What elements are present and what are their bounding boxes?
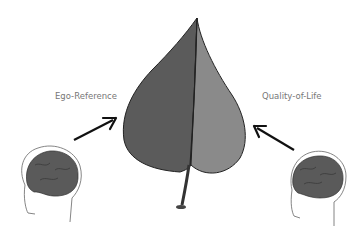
quality-of-life-label: Quality-of-Life xyxy=(262,91,322,101)
brain-head-icon xyxy=(22,146,82,222)
brain-head-icon xyxy=(291,151,346,226)
arrow-right-to-leaf xyxy=(254,126,294,150)
ego-reference-label: Ego-Reference xyxy=(55,91,117,101)
leaf-icon xyxy=(123,18,245,209)
arrow-left-to-leaf xyxy=(74,118,116,140)
diagram-canvas xyxy=(0,0,363,234)
